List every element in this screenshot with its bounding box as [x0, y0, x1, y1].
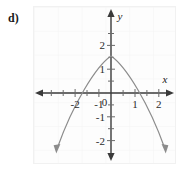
part-label: d) [8, 12, 19, 24]
x-axis-label: x [162, 73, 168, 85]
origin-label: 0 [102, 96, 108, 108]
figure-container: d) [0, 0, 186, 175]
y-tick-label--2: -2 [96, 135, 105, 147]
y-tick-label-2: 2 [100, 39, 106, 51]
y-tick-label--1: -1 [96, 111, 105, 123]
x-tick-label-1: 1 [132, 98, 138, 110]
graph-svg: -2 -1 0 1 2 2 1 -1 -2 y x [34, 7, 175, 163]
x-tick-label--2: -2 [71, 98, 80, 110]
y-tick-label-1: 1 [100, 63, 106, 75]
plot-area: -2 -1 0 1 2 2 1 -1 -2 y x [33, 6, 176, 164]
y-axis-label: y [117, 10, 123, 22]
x-tick-label-2: 2 [156, 98, 162, 110]
